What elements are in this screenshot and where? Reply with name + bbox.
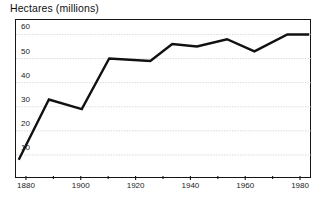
plot-svg (16, 20, 312, 179)
y-tick-label-40: 40 (21, 71, 30, 80)
x-tick-label-1900: 1900 (72, 181, 90, 190)
x-axis-tick-marks (15, 176, 311, 182)
x-tick-label-1940: 1940 (182, 181, 200, 190)
plot-area (15, 19, 311, 178)
series-line-1 (19, 34, 310, 159)
x-tick-label-1960: 1960 (236, 181, 254, 190)
y-tick-label-50: 50 (21, 47, 30, 56)
series-group (19, 34, 310, 159)
y-tick-label-30: 30 (21, 95, 30, 104)
gridlines (16, 34, 312, 154)
x-tick-label-1980: 1980 (291, 181, 309, 190)
y-tick-label-60: 60 (21, 22, 30, 31)
y-tick-label-10: 10 (21, 143, 30, 152)
x-tick-label-1920: 1920 (127, 181, 145, 190)
chart-title: Hectares (millions) (10, 2, 99, 15)
y-tick-label-20: 20 (21, 119, 30, 128)
chart-figure: Hectares (millions) 102030405060 1880190… (0, 0, 322, 209)
x-tick-label-1880: 1880 (17, 181, 35, 190)
